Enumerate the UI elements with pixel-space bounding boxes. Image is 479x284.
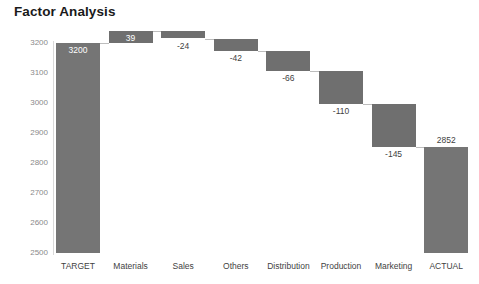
y-axis-line xyxy=(53,41,54,255)
connector-line xyxy=(363,104,372,105)
bar-value-label: -110 xyxy=(319,106,363,116)
bar-value-label: 3200 xyxy=(56,45,100,55)
category-label-others: Others xyxy=(206,261,266,271)
bar-value-label: -42 xyxy=(214,53,258,63)
y-axis-tick-label: 3000 xyxy=(8,98,48,107)
category-label-actual: ACTUAL xyxy=(416,261,476,271)
bar-others[interactable] xyxy=(214,39,258,52)
bar-production[interactable] xyxy=(319,71,363,104)
bar-sales[interactable] xyxy=(161,31,205,38)
category-label-marketing: Marketing xyxy=(364,261,424,271)
y-axis-tick-label: 3100 xyxy=(8,68,48,77)
bar-value-label: -66 xyxy=(266,73,310,83)
category-label-distribution: Distribution xyxy=(258,261,318,271)
bar-distribution[interactable] xyxy=(266,51,310,71)
category-label-sales: Sales xyxy=(153,261,213,271)
connector-line xyxy=(258,51,267,52)
bar-marketing[interactable] xyxy=(372,104,416,148)
bar-actual[interactable] xyxy=(424,147,468,253)
bar-value-label: 2852 xyxy=(424,135,468,145)
connector-line xyxy=(205,39,214,40)
connector-line xyxy=(100,43,109,44)
plot-area: 32003100300029002800270026002500 320039-… xyxy=(0,0,479,284)
waterfall-chart: Factor Analysis 320031003000290028002700… xyxy=(0,0,479,284)
category-label-target: TARGET xyxy=(48,261,108,271)
y-axis-tick-label: 2600 xyxy=(8,218,48,227)
y-axis-tick-label: 2900 xyxy=(8,128,48,137)
bar-value-label: -24 xyxy=(161,41,205,51)
bar-value-label: 39 xyxy=(109,33,153,43)
connector-line xyxy=(153,31,162,32)
connector-line xyxy=(416,147,425,148)
y-axis-tick-label: 2800 xyxy=(8,158,48,167)
y-axis-tick-label: 2700 xyxy=(8,188,48,197)
y-axis-tick-label: 2500 xyxy=(8,248,48,257)
bar-value-label: -145 xyxy=(372,149,416,159)
category-label-materials: Materials xyxy=(101,261,161,271)
connector-line xyxy=(310,71,319,72)
bar-target[interactable] xyxy=(56,43,100,253)
y-axis-tick-label: 3200 xyxy=(8,38,48,47)
category-label-production: Production xyxy=(311,261,371,271)
